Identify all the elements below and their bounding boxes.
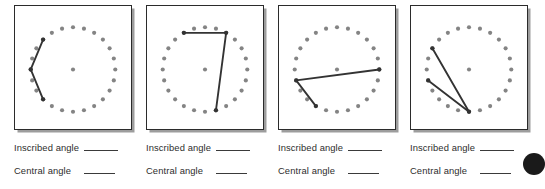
ring-dot [203,25,207,29]
central-angle-answer-blank[interactable] [216,173,247,174]
angle-vertex-dot [224,31,228,35]
ring-dot [446,31,450,35]
angle-arm-1 [31,69,43,99]
ring-dot [488,104,492,108]
answer-prompts-4: Inscribed angleCentral angle [410,136,536,182]
clock-circle-diagram-3 [279,6,395,129]
ring-dot [425,67,429,71]
ring-dot [305,38,309,42]
ring-dot [244,78,248,82]
ring-dot [437,97,441,101]
inscribed-angle-answer-blank[interactable] [348,150,382,151]
ring-dot [372,46,376,50]
angle-arm-2 [216,33,226,110]
central-angle-row-1: Central angle [14,159,140,182]
ring-dot [335,110,339,114]
ring-dot [467,25,471,29]
ring-dot [245,67,249,71]
ring-dot [101,97,105,101]
ring-dot [376,78,380,82]
central-angle-row-2: Central angle [146,159,272,182]
ring-dot [504,46,508,50]
ring-dot [456,108,460,112]
ring-dot [240,46,244,50]
ring-dot [113,67,117,71]
answer-prompts-1: Inscribed angleCentral angle [14,136,140,182]
clock-circle-diagram-4 [411,6,527,129]
ring-dot [508,78,512,82]
ring-dot [50,104,54,108]
angle-endpoint-dot [377,67,381,71]
ring-dot [82,27,86,31]
ring-dot [372,89,376,93]
ring-dot [203,110,207,114]
inscribed-angle-answer-blank[interactable] [216,150,250,151]
ring-dot [60,108,64,112]
inscribed-angle-row-4: Inscribed angle [410,136,536,159]
ring-dot [71,25,75,29]
angle-endpoint-dot [426,78,430,82]
inscribed-angle-label: Inscribed angle [146,142,211,153]
ring-dot [161,67,165,71]
ring-dot [30,56,34,60]
ring-dot [224,104,228,108]
angle-endpoint-dot [41,97,45,101]
ring-dot [446,104,450,108]
circle-figure-box-3 [278,5,396,130]
ring-dot [162,56,166,60]
center-dot-3 [335,67,339,71]
inscribed-angle-answer-blank[interactable] [84,150,118,151]
ring-dot [34,89,38,93]
angle-endpoint-dot [41,37,45,41]
ring-dot [356,31,360,35]
ring-dot [346,108,350,112]
problem-4: Inscribed angleCentral angle [406,0,536,189]
angle-vertex-dot [29,67,33,71]
angle-arm-2 [31,40,43,70]
ring-dot [456,27,460,31]
inscribed-angle-label: Inscribed angle [278,142,343,153]
angle-vertex-dot [294,78,298,82]
ring-dot [509,67,513,71]
ring-dot [182,104,186,108]
ring-dot [497,38,501,42]
ring-dot [30,78,34,82]
central-angle-label: Central angle [410,165,467,176]
ring-dot [365,38,369,42]
ring-dot [293,67,297,71]
ring-dot [504,89,508,93]
ring-dot [60,27,64,31]
ring-dot [108,46,112,50]
ring-dot [92,104,96,108]
ring-dot [335,25,339,29]
ring-dot [298,46,302,50]
angle-endpoint-dot [430,46,434,50]
ring-dot [324,108,328,112]
ring-dot [162,78,166,82]
ring-dot [478,108,482,112]
central-angle-answer-blank[interactable] [84,173,115,174]
ring-dot [488,31,492,35]
angle-vertex-dot [467,110,471,114]
ring-dot [101,38,105,42]
inscribed-angle-label: Inscribed angle [410,142,475,153]
central-angle-answer-blank[interactable] [480,173,511,174]
page-corner-mark [523,153,545,175]
ring-dot [346,27,350,31]
ring-dot [314,31,318,35]
inscribed-angle-answer-blank[interactable] [480,150,514,151]
ring-dot [112,78,116,82]
clock-circle-diagram-2 [147,6,263,129]
angle-endpoint-dot [214,108,218,112]
center-dot-1 [71,67,75,71]
central-angle-answer-blank[interactable] [348,173,379,174]
problem-1: Inscribed angleCentral angle [10,0,140,189]
clock-circle-diagram-1 [15,6,131,129]
central-angle-row-3: Central angle [278,159,404,182]
ring-dot [112,56,116,60]
ring-dot [92,31,96,35]
ring-dot [376,56,380,60]
ring-dot [214,27,218,31]
central-angle-row-4: Central angle [410,159,536,182]
